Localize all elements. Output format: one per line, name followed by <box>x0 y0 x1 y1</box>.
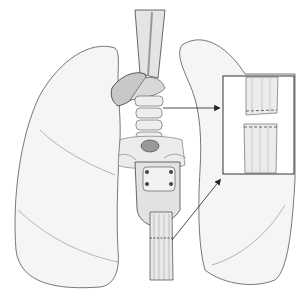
medical-illustration <box>0 0 305 299</box>
lower-bronchus-tube <box>150 212 173 280</box>
trachea-rings <box>135 96 163 140</box>
lung-diagram <box>0 0 305 299</box>
endotracheal-tube <box>111 10 165 106</box>
magnified-inset <box>223 76 294 174</box>
left-lung <box>15 46 120 287</box>
